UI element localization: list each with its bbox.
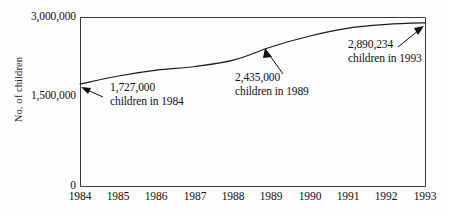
chart-container: No. of children 3,000,000 1,500,000 0 19…: [0, 0, 449, 217]
plot-area: [0, 0, 449, 217]
annotation-1989-caption: children in 1989: [235, 85, 309, 99]
annotation-1989: 2,435,000 children in 1989: [235, 71, 309, 98]
annotation-leader-1984: [81, 87, 103, 97]
annotation-1984-caption: children in 1984: [110, 95, 184, 109]
annotation-1993-value: 2,890,234: [348, 38, 393, 50]
annotation-1993: 2,890,234 children in 1993: [348, 38, 422, 65]
annotation-1993-caption: children in 1993: [348, 52, 422, 66]
annotation-1989-value: 2,435,000: [235, 71, 280, 83]
annotation-1984-value: 1,727,000: [110, 81, 155, 93]
annotation-1984: 1,727,000 children in 1984: [110, 81, 184, 108]
